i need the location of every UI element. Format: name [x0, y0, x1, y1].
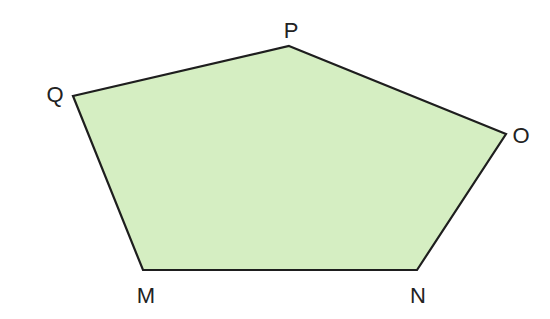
pentagon-mnopq — [73, 46, 506, 270]
vertex-label-m: M — [137, 283, 155, 308]
vertex-label-q: Q — [46, 82, 63, 107]
vertex-label-n: N — [410, 283, 426, 308]
pentagon-diagram: P O N M Q — [0, 0, 550, 319]
vertex-label-p: P — [284, 18, 299, 43]
vertex-label-o: O — [512, 123, 529, 148]
